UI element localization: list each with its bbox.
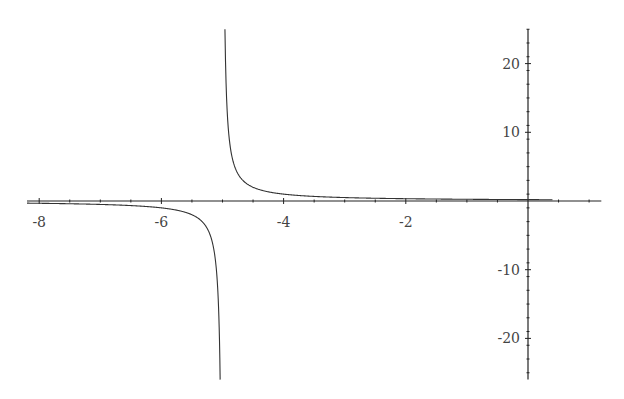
- curve-left-branch: [27, 203, 220, 379]
- y-tick-label: 10: [502, 124, 520, 140]
- x-axis: [27, 198, 601, 204]
- x-tick-labels: -8-6-4-2: [32, 214, 412, 230]
- x-tick-label: -8: [32, 214, 46, 230]
- y-axis: [525, 29, 531, 379]
- curve: [27, 29, 552, 379]
- x-tick-label: -4: [277, 214, 291, 230]
- y-tick-label: -10: [497, 262, 520, 278]
- y-tick-label: 20: [502, 56, 520, 72]
- y-tick-label: -20: [497, 330, 520, 346]
- function-plot: -8-6-4-2 2010-10-20: [0, 0, 624, 399]
- x-tick-label: -6: [155, 214, 169, 230]
- x-tick-label: -2: [399, 214, 413, 230]
